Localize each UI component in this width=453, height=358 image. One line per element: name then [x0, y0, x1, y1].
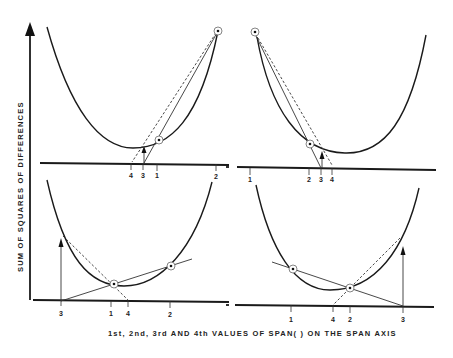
x-axis-label: 1st, 2nd, 3rd AND 4th VALUES OF SPAN( ) …	[108, 329, 397, 338]
y-axis-label: SUM OF SQUARES OF DIFFERENCES	[16, 101, 25, 272]
tick-label: 4	[129, 172, 133, 179]
tick-label: 2	[348, 316, 352, 323]
panel-top-right: 1 2 3 4	[226, 28, 436, 183]
tick-label: 1	[155, 172, 159, 179]
tick-label: 4	[330, 176, 334, 183]
panel-bottom-right: 1 4 2 3	[226, 185, 434, 323]
tick-label: 3	[59, 310, 63, 317]
tick-label: 2	[214, 173, 218, 180]
tick-label: 1	[289, 316, 293, 323]
y-axis	[25, 22, 35, 300]
y-axis-arrow-icon	[25, 22, 35, 36]
tick-label: 1	[109, 310, 113, 317]
span-search-diagram: 4 3 1 2 1 2 3 4	[0, 0, 453, 358]
panel-bottom-left: 3 1 4 2	[33, 180, 229, 318]
tick-label: 2	[307, 176, 311, 183]
tick-label: 3	[401, 316, 405, 323]
tick-label: 2	[168, 311, 172, 318]
tick-label: 4	[331, 316, 335, 323]
tick-label: 4	[126, 310, 130, 317]
tick-label: 1	[248, 176, 252, 183]
tick-label: 3	[141, 172, 145, 179]
panel-top-left: 4 3 1 2	[40, 27, 229, 180]
tick-label: 3	[319, 176, 323, 183]
